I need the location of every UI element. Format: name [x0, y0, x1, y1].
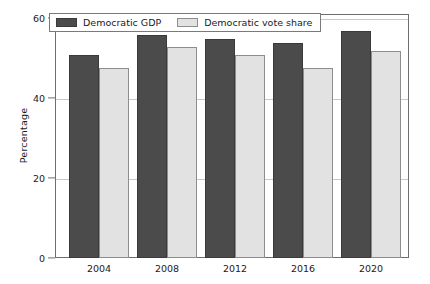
y-tick-label-20: 20	[17, 173, 45, 184]
x-tick-label-2004: 2004	[69, 263, 129, 274]
bar-vote-2020	[371, 51, 401, 258]
x-tick-label-2012: 2012	[205, 263, 265, 274]
y-tick-mark-40	[48, 97, 55, 98]
legend-entry-democratic-vote-share: Democratic vote share	[177, 17, 312, 28]
y-tick-mark-0	[48, 257, 55, 258]
x-tick-label-2008: 2008	[137, 263, 197, 274]
legend-label-vote: Democratic vote share	[204, 17, 312, 28]
y-axis-title: Percentage	[18, 66, 29, 206]
legend-entry-democratic-gdp: Democratic GDP	[56, 17, 161, 28]
bar-gdp-2016	[273, 43, 303, 258]
chart-legend: Democratic GDP Democratic vote share	[49, 13, 321, 32]
y-tick-label-40: 40	[17, 93, 45, 104]
bar-vote-2004	[99, 68, 129, 258]
bar-vote-2012	[235, 55, 265, 258]
y-tick-mark-20	[48, 177, 55, 178]
bar-vote-2016	[303, 68, 333, 258]
bar-gdp-2012	[205, 39, 235, 258]
legend-swatch-icon-gdp	[56, 18, 77, 27]
y-tick-label-60: 60	[17, 13, 45, 24]
x-tick-label-2016: 2016	[273, 263, 333, 274]
bar-gdp-2020	[341, 31, 371, 258]
bar-vote-2008	[167, 47, 197, 258]
y-tick-label-0: 0	[17, 253, 45, 264]
legend-label-gdp: Democratic GDP	[83, 17, 161, 28]
bar-chart: Percentage 0 20 40 60 2004 2008 2012 201…	[0, 0, 430, 284]
bar-gdp-2008	[137, 35, 167, 258]
x-tick-label-2020: 2020	[341, 263, 401, 274]
bars-layer	[55, 14, 409, 258]
bar-gdp-2004	[69, 55, 99, 258]
legend-swatch-icon-vote	[177, 18, 198, 27]
